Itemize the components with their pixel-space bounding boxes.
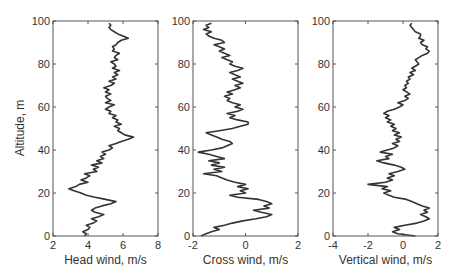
wind-profile-figure: 0204060801002468Head wind, m/s 020406080… bbox=[0, 0, 456, 276]
cross-wind-x-axis-label: Cross wind, m/s bbox=[203, 253, 288, 267]
y-tick-label: 60 bbox=[38, 101, 50, 113]
y-axis-label: Altitude, m bbox=[13, 100, 27, 157]
y-tick-label: 100 bbox=[172, 15, 190, 27]
x-tick-label: 0 bbox=[400, 239, 406, 251]
panel-vertical-wind: 020406080100-4-202Vertical wind, m/s bbox=[312, 15, 441, 267]
head-wind-axes-frame bbox=[53, 21, 158, 236]
y-tick-label: 20 bbox=[38, 187, 50, 199]
y-tick-label: 20 bbox=[318, 187, 330, 199]
x-tick-label: 8 bbox=[155, 239, 161, 251]
y-tick-label: 20 bbox=[178, 187, 190, 199]
y-tick-label: 40 bbox=[178, 144, 190, 156]
x-tick-label: -4 bbox=[328, 239, 338, 251]
cross-wind-profile-line bbox=[198, 23, 271, 236]
y-tick-label: 40 bbox=[38, 144, 50, 156]
y-tick-label: 80 bbox=[178, 58, 190, 70]
panel-cross-wind: 020406080100-202Cross wind, m/s bbox=[172, 15, 301, 267]
x-tick-label: -2 bbox=[188, 239, 198, 251]
head-wind-x-axis-label: Head wind, m/s bbox=[64, 253, 147, 267]
x-tick-label: 6 bbox=[120, 239, 126, 251]
x-tick-label: 4 bbox=[85, 239, 91, 251]
y-tick-label: 60 bbox=[318, 101, 330, 113]
x-tick-label: 0 bbox=[242, 239, 248, 251]
y-tick-label: 100 bbox=[32, 15, 50, 27]
y-tick-label: 80 bbox=[318, 58, 330, 70]
head-wind-profile-line bbox=[69, 23, 134, 236]
vertical-wind-profile-line bbox=[368, 23, 429, 236]
panel-head-wind: 0204060801002468Head wind, m/s bbox=[32, 15, 161, 267]
cross-wind-axes-frame bbox=[193, 21, 298, 236]
y-tick-label: 100 bbox=[312, 15, 330, 27]
vertical-wind-axes-frame bbox=[333, 21, 438, 236]
x-tick-label: 2 bbox=[295, 239, 301, 251]
y-tick-label: 40 bbox=[318, 144, 330, 156]
x-tick-label: -2 bbox=[363, 239, 373, 251]
y-tick-label: 60 bbox=[178, 101, 190, 113]
x-tick-label: 2 bbox=[50, 239, 56, 251]
x-tick-label: 2 bbox=[435, 239, 441, 251]
vertical-wind-x-axis-label: Vertical wind, m/s bbox=[339, 253, 432, 267]
y-tick-label: 80 bbox=[38, 58, 50, 70]
